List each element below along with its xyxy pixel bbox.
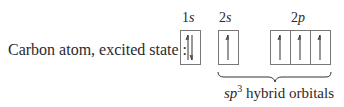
electron-up-arrow-icon [318, 35, 320, 60]
electron-up-arrow-icon [278, 35, 280, 60]
electron-up-arrow-icon [226, 35, 228, 60]
electron-up-arrow-icon [186, 35, 188, 60]
curly-brace-icon [218, 72, 331, 82]
electron-down-arrow-icon [190, 35, 192, 60]
hybrid-orbitals-label: sp3 hybrid orbitals [224, 83, 334, 102]
electron-up-arrow-icon [298, 35, 300, 60]
